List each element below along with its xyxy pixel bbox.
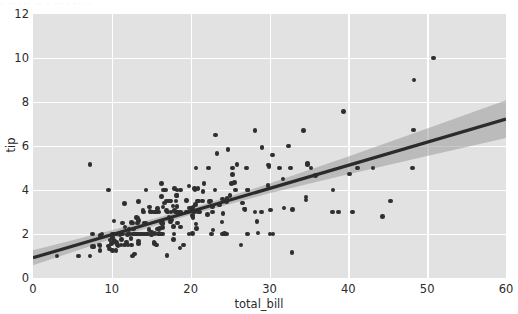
y-tick-label: 4 xyxy=(2,183,29,197)
x-tick-label: 50 xyxy=(407,282,447,296)
x-tick-label: 30 xyxy=(250,282,290,296)
y-tick-label: 8 xyxy=(2,95,29,109)
y-tick-label: 12 xyxy=(2,7,29,21)
x-tick-label: 0 xyxy=(13,282,53,296)
y-tick-label: 2 xyxy=(2,227,29,241)
plot-axes-area xyxy=(33,14,506,278)
top-clipped-text-artifact: · ·· ··· ·· · ···· ··· · xyxy=(0,0,518,7)
x-tick-label: 60 xyxy=(486,282,518,296)
x-axis-label: total_bill xyxy=(0,297,518,311)
regression-fit-line xyxy=(33,119,506,258)
x-tick-label: 20 xyxy=(171,282,211,296)
x-tick-label: 10 xyxy=(92,282,132,296)
x-tick-label: 40 xyxy=(328,282,368,296)
y-axis-label: tip xyxy=(4,125,18,165)
regression-plot-figure: · ·· ··· ·· · ···· ··· · 024681012 01020… xyxy=(0,0,518,314)
x-axis-tick-labels: 0102030405060 xyxy=(0,282,518,298)
y-tick-label: 10 xyxy=(2,51,29,65)
regression-line xyxy=(33,14,506,278)
